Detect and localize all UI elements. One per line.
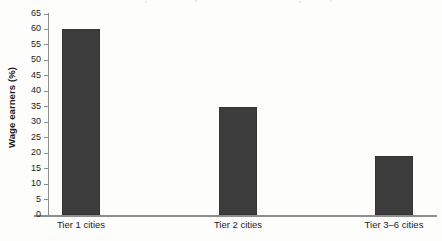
x-axis-category-label: Tier 3–6 cities <box>365 219 424 230</box>
y-axis-tick-label: 25 <box>31 132 41 143</box>
y-axis-title-text: Wage earners (%) <box>6 67 17 148</box>
y-axis-tick-label: 5 <box>36 194 41 205</box>
y-axis-tick-label: 35 <box>31 101 41 112</box>
y-axis-tick-label: 10 <box>31 178 41 189</box>
x-axis-category-label: Tier 2 cities <box>214 219 262 230</box>
plot-area <box>48 14 437 215</box>
x-axis-line <box>34 215 437 217</box>
bar <box>219 107 257 215</box>
y-axis-tick-label: 30 <box>31 116 41 127</box>
y-axis-tick-label: 45 <box>31 70 41 81</box>
y-axis-tick-label: 40 <box>31 85 41 96</box>
bar <box>62 29 100 215</box>
y-axis-tick-label: 65 <box>31 8 41 19</box>
y-axis-title: Wage earners (%) <box>0 0 22 215</box>
bar <box>375 156 413 215</box>
bar-chart-figure: Wage earners (%) 05101520253035404550556… <box>0 0 442 241</box>
x-axis-category-label: Tier 1 cities <box>57 219 105 230</box>
y-axis-tick-label: 50 <box>31 54 41 65</box>
y-axis-tick-label: 0 <box>36 209 41 220</box>
y-axis-tick-label: 20 <box>31 147 41 158</box>
y-axis-tick-label: 15 <box>31 163 41 174</box>
scan-artifact-band <box>0 0 442 5</box>
y-axis-tick-label: 60 <box>31 23 41 34</box>
y-axis-tick-label: 55 <box>31 39 41 50</box>
